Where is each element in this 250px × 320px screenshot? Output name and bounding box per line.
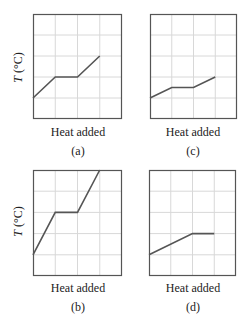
x-axis-label-c: Heat added xyxy=(133,125,250,140)
panel-label-a: (a) xyxy=(58,144,98,159)
panel-label-c: (c) xyxy=(173,144,213,159)
panel-d xyxy=(149,170,236,276)
temperature-curve xyxy=(149,234,214,255)
panel-c xyxy=(150,14,237,119)
x-axis-label-d: Heat added xyxy=(133,281,250,296)
plot-b xyxy=(33,170,122,276)
plot-d xyxy=(149,170,236,276)
plot-a xyxy=(33,14,122,119)
panel-label-b: (b) xyxy=(58,300,98,315)
plot-c xyxy=(150,14,237,119)
temperature-curve xyxy=(150,77,215,98)
panel-label-d: (d) xyxy=(173,300,213,315)
panel-a xyxy=(33,14,122,119)
x-axis-label-b: Heat added xyxy=(18,281,138,296)
y-axis-label-a: T (°C) xyxy=(11,38,26,98)
panel-b xyxy=(33,170,122,276)
y-axis-label-b: T (°C) xyxy=(11,192,26,252)
x-axis-label-a: Heat added xyxy=(18,125,138,140)
